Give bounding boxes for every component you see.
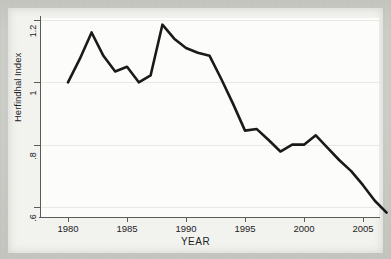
x-tick-label-2000: 2000 <box>293 223 314 234</box>
chart-screenshot: 1.2 1 .8 .6 1980 1985 1990 1995 2000 200… <box>0 0 391 259</box>
y-tick-label-0.8: .8 <box>28 146 38 166</box>
x-tick-label-1985: 1985 <box>116 223 137 234</box>
x-tick-label-1980: 1980 <box>57 223 78 234</box>
x-axis-tick <box>363 217 364 222</box>
x-axis-tick <box>245 217 246 222</box>
gridline-1 <box>40 82 379 83</box>
y-tick-label-1: 1 <box>28 83 38 103</box>
x-axis-tick <box>186 217 187 222</box>
gridline-0.6 <box>40 207 379 208</box>
gridline-0.8 <box>40 145 379 146</box>
y-axis-spine <box>40 16 41 218</box>
y-tick-label-1.2: 1.2 <box>28 21 38 41</box>
x-tick-label-1990: 1990 <box>175 223 196 234</box>
x-tick-label-2005: 2005 <box>352 223 373 234</box>
plot-area <box>40 18 379 217</box>
x-axis-title: YEAR <box>0 236 391 247</box>
y-tick-label-0.6: .6 <box>28 208 38 228</box>
gridline-1.2 <box>40 20 379 21</box>
x-axis-tick <box>304 217 305 222</box>
x-axis-spine <box>39 217 380 218</box>
x-axis-tick <box>68 217 69 222</box>
x-tick-label-1995: 1995 <box>234 223 255 234</box>
x-axis-tick <box>127 217 128 222</box>
y-axis-title: Herfindhal Index <box>12 53 23 122</box>
